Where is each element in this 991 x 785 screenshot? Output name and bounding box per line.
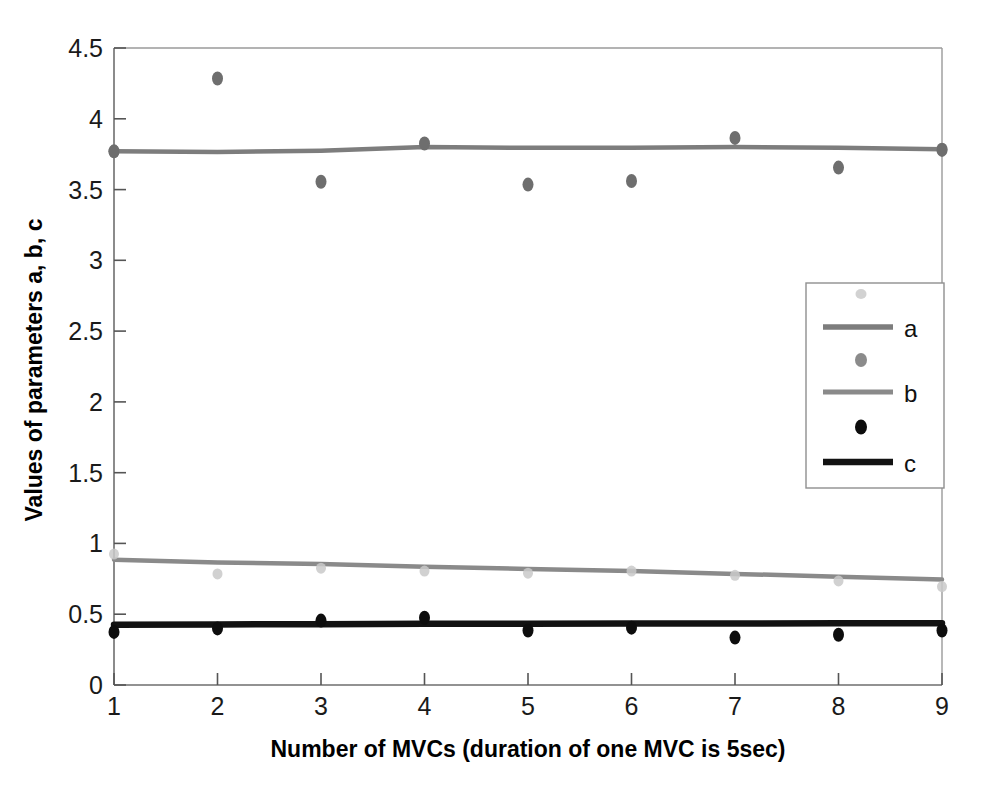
legend-entry-faint-marker[interactable]	[856, 289, 867, 299]
y-tick-label: 2	[89, 388, 103, 416]
data-point-c	[626, 621, 637, 635]
data-point-c	[730, 631, 741, 645]
x-axis-title: Number of MVCs (duration of one MVC is 5…	[271, 736, 786, 762]
legend-entry-b-marker[interactable]	[855, 420, 867, 435]
data-point-c	[212, 621, 223, 635]
data-point-b	[834, 575, 844, 586]
chart-figure: 4.5 4 3.5 3 2.5 2 1.5 1 0.5 0 1 2	[0, 0, 991, 785]
legend-entry-a-marker[interactable]	[855, 353, 867, 367]
data-point-a	[419, 137, 430, 151]
x-tick-label: 8	[832, 692, 846, 720]
data-point-a	[523, 178, 534, 192]
data-point-c	[109, 625, 120, 639]
legend-label-b: b	[904, 380, 917, 407]
y-tick-label: 4	[89, 105, 103, 133]
data-point-b	[316, 563, 326, 574]
data-point-c	[419, 611, 430, 625]
data-point-a	[626, 174, 637, 188]
legend[interactable]: a b c	[806, 283, 944, 488]
y-tick-label: 0	[89, 671, 103, 699]
data-point-b	[937, 581, 947, 592]
x-tick-label: 3	[314, 692, 328, 720]
data-point-a	[730, 131, 741, 145]
y-tick-label: 2.5	[68, 317, 103, 345]
data-point-b	[730, 570, 740, 581]
x-tick-label: 1	[107, 692, 121, 720]
x-tick-label: 4	[418, 692, 432, 720]
faint-marker-icon	[856, 289, 867, 299]
y-tick-label: 3	[89, 246, 103, 274]
data-point-b	[420, 566, 430, 577]
y-tick-label: 3.5	[68, 176, 103, 204]
x-tick-label: 5	[521, 692, 535, 720]
legend-label-c: c	[904, 450, 916, 477]
data-point-c	[316, 614, 327, 628]
data-point-a	[833, 161, 844, 175]
y-tick-label: 0.5	[68, 600, 103, 628]
y-tick-label: 4.5	[68, 34, 103, 62]
x-tick-label: 9	[935, 692, 949, 720]
black-marker-icon	[855, 420, 867, 435]
y-tick-label: 1.5	[68, 459, 103, 487]
gray-marker-icon	[855, 353, 867, 367]
data-point-c	[937, 624, 948, 638]
data-point-a	[316, 175, 327, 189]
x-tick-label: 2	[211, 692, 225, 720]
legend-box	[806, 283, 944, 488]
y-tick-label: 1	[89, 529, 103, 557]
data-point-a	[937, 143, 948, 157]
y-axis-title: Values of parameters a, b, c	[21, 218, 47, 521]
parameters-scatter-chart: 4.5 4 3.5 3 2.5 2 1.5 1 0.5 0 1 2	[0, 0, 991, 785]
data-point-c	[523, 624, 534, 638]
data-point-a	[109, 144, 120, 158]
data-point-b	[109, 549, 119, 560]
x-tick-label: 7	[728, 692, 742, 720]
data-point-a	[212, 71, 223, 85]
legend-label-a: a	[904, 315, 918, 342]
data-point-b	[213, 568, 223, 579]
data-point-b	[523, 568, 533, 579]
data-point-c	[833, 628, 844, 642]
data-point-b	[627, 566, 637, 577]
x-tick-label: 6	[625, 692, 639, 720]
